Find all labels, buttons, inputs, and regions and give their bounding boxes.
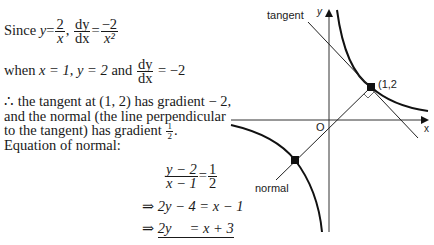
intersection-point (291, 156, 299, 164)
tangent-label: tangent (267, 9, 304, 21)
point-1-2 (367, 83, 375, 91)
origin-label: O (316, 121, 325, 133)
point-label: (1,2 (378, 78, 397, 90)
curve-upper-branch (337, 10, 428, 111)
hyperbola-diagram (0, 0, 434, 245)
normal-label: normal (255, 182, 289, 194)
normal-line (276, 87, 371, 180)
y-axis-label: y (317, 6, 322, 17)
y-axis-arrow-icon (325, 9, 333, 17)
x-axis-label: x (424, 123, 429, 134)
curve-lower-branch (231, 125, 322, 232)
